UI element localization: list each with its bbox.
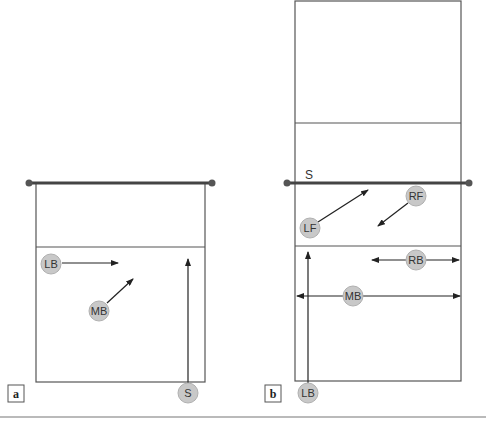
svg-text:S: S [184,387,191,399]
arrow-mb-a [107,279,133,303]
net-post-left-b [284,180,291,187]
player-mb-a: MB [89,301,109,321]
player-rb-b: RB [406,250,426,270]
panel-label-b: b [265,385,281,402]
player-s-a: S [178,383,198,403]
player-mb-b: MB [343,286,363,306]
net-post-right-a [209,180,216,187]
svg-text:LB: LB [44,258,57,270]
panel-a: LB MB S a [8,180,216,404]
player-lf-b: LF [300,218,320,238]
svg-text:a: a [13,387,19,401]
court-half-a [36,183,205,382]
player-lb-a: LB [41,254,61,274]
volleyball-diagram: LB MB S a S LF [0,0,486,424]
setter-label-b: S [305,168,313,182]
svg-text:LB: LB [301,387,314,399]
svg-text:RB: RB [408,254,423,266]
panel-label-a: a [8,385,24,402]
svg-text:MB: MB [345,290,362,302]
panel-b: S LF RF RB MB LB b [265,1,473,403]
court-full-b [295,1,461,381]
svg-text:RF: RF [409,190,424,202]
player-lb-b: LB [298,383,318,403]
arrow-rf-b [378,203,408,226]
svg-text:MB: MB [91,305,108,317]
svg-text:b: b [270,387,277,401]
svg-text:LF: LF [304,222,317,234]
player-rf-b: RF [406,186,426,206]
arrow-lf-b [318,190,368,222]
net-post-right-b [466,180,473,187]
net-post-left-a [26,180,33,187]
